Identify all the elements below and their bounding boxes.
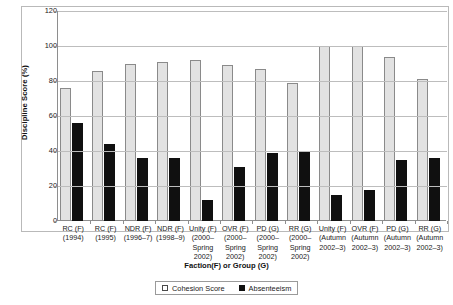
bar-cohesion-score [190, 60, 201, 221]
bar-cohesion-score [157, 62, 168, 221]
y-tick-label: 60 [17, 112, 57, 119]
bar-absenteeism [364, 190, 375, 222]
x-category-label: RR (G)(Autumn2002–3) [410, 224, 450, 252]
y-tick-label: 40 [17, 147, 57, 154]
bar-cohesion-score [125, 64, 136, 222]
bar-absenteeism [234, 167, 245, 221]
gridline [58, 186, 447, 187]
y-tick-label: 80 [17, 77, 57, 84]
gridline [58, 81, 447, 82]
x-axis-title: Faction(F) or Group (G) [0, 261, 453, 270]
y-tick-label: 20 [17, 182, 57, 189]
legend-entry: Cohesion Score [162, 284, 225, 293]
y-tick-label: 100 [17, 42, 57, 49]
bar-absenteeism [331, 195, 342, 221]
bar-cohesion-score [255, 69, 266, 221]
gridline [58, 151, 447, 152]
x-category-label-line: 2002–3) [410, 243, 450, 252]
bar-absenteeism [429, 158, 440, 221]
bar-absenteeism [396, 160, 407, 221]
bar-absenteeism [169, 158, 180, 221]
discipline-score-bar-chart: Discipline Score (%) 020406080100120 RC … [0, 0, 453, 305]
y-tick-label: 0 [17, 217, 57, 224]
x-category-label-line: RR (G) [410, 224, 450, 233]
hollow-square-icon [162, 285, 168, 291]
gridline [58, 116, 447, 117]
x-category-label-line: (Autumn [410, 233, 450, 242]
bar-cohesion-score [60, 88, 71, 221]
plot-area [57, 11, 446, 221]
bar-absenteeism [104, 144, 115, 221]
legend-entry: Absenteeism [239, 284, 292, 293]
bar-cohesion-score [319, 46, 330, 221]
y-tick-mark [54, 221, 57, 222]
chart-legend: Cohesion ScoreAbsenteeism [155, 281, 298, 295]
bar-cohesion-score [222, 65, 233, 221]
filled-square-icon [239, 285, 245, 291]
legend-label: Cohesion Score [172, 284, 225, 293]
legend-label: Absenteeism [249, 284, 292, 293]
bar-cohesion-score [92, 71, 103, 222]
bar-cohesion-score [352, 46, 363, 221]
gridline [58, 11, 447, 12]
gridline [58, 46, 447, 47]
bar-absenteeism [137, 158, 148, 221]
bar-absenteeism [202, 200, 213, 221]
bar-absenteeism [72, 123, 83, 221]
y-tick-label: 120 [17, 7, 57, 14]
